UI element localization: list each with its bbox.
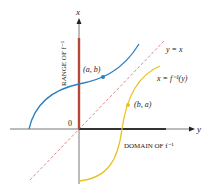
origin-label: 0 <box>68 119 72 128</box>
point-b-a-label: (b, a) <box>134 100 152 109</box>
inverse-function-diagram: x y 0 (a, b) (b, a) y = x x = f⁻¹(y) RAN… <box>0 0 211 188</box>
range-label: RANGE OF f⁻¹ <box>60 41 68 86</box>
vertical-axis-label: x <box>75 7 80 17</box>
identity-equation-label: y = x <box>165 45 183 54</box>
horizontal-axis-arrow-icon <box>189 127 195 132</box>
inverse-equation-label: x = f⁻¹(y) <box>156 74 188 83</box>
domain-label: DOMAIN OF f⁻¹ <box>124 142 174 150</box>
curve-f <box>29 44 139 129</box>
vertical-axis-arrow-icon <box>77 18 82 24</box>
point-b-a <box>126 103 130 107</box>
point-a-b-label: (a, b) <box>83 65 101 74</box>
point-a-b <box>101 75 105 79</box>
horizontal-axis-label: y <box>196 124 201 134</box>
identity-line <box>30 40 165 180</box>
curve-f-inverse <box>79 66 160 181</box>
